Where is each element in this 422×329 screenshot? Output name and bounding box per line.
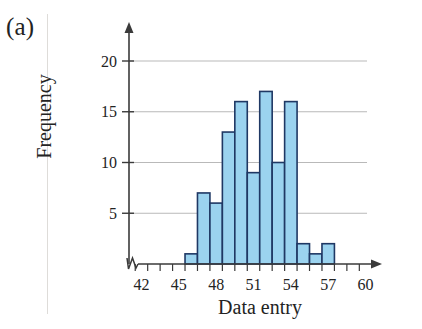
histogram-bar xyxy=(247,173,259,264)
histogram-bar xyxy=(235,102,247,264)
x-tick-label: 60 xyxy=(358,276,374,293)
histogram-bar xyxy=(197,193,209,264)
x-tick-label: 57 xyxy=(320,276,336,293)
histogram-bar xyxy=(210,203,222,264)
histogram-bar xyxy=(272,163,284,265)
y-tick-label: 20 xyxy=(101,53,117,70)
histogram-figure: (a) Frequency Data entry 510152042454851… xyxy=(0,0,422,329)
histogram-bar xyxy=(310,254,322,264)
y-tick-label: 15 xyxy=(101,103,117,120)
histogram-bar xyxy=(285,102,297,264)
histogram-bar xyxy=(297,244,309,264)
histogram-plot: 510152042454851545760 xyxy=(0,0,422,329)
x-tick-label: 48 xyxy=(208,276,224,293)
y-ticks-group xyxy=(122,61,134,213)
y-tick-label: 5 xyxy=(109,205,117,222)
y-axis-arrow-icon xyxy=(125,22,134,33)
x-tick-label: 45 xyxy=(171,276,187,293)
x-tick-label: 51 xyxy=(246,276,262,293)
y-tick-label: 10 xyxy=(101,154,117,171)
x-axis-arrow-icon xyxy=(371,260,382,269)
histogram-bar xyxy=(260,91,272,264)
x-ticks-group xyxy=(135,264,359,271)
histogram-bar xyxy=(185,254,197,264)
bars-group xyxy=(185,91,334,264)
x-tick-label: 54 xyxy=(283,276,299,293)
x-tick-label: 42 xyxy=(133,276,149,293)
histogram-bar xyxy=(322,244,334,264)
histogram-bar xyxy=(222,132,234,264)
